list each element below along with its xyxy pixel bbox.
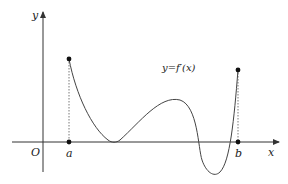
derivative-curve	[69, 59, 238, 174]
point-b-label: b	[235, 147, 242, 160]
x-axis-label: x	[268, 146, 275, 159]
graph-canvas: y x O a b y=f′(x)	[0, 0, 288, 184]
point-a-axis	[67, 140, 72, 145]
y-axis-label: y	[31, 9, 39, 22]
point-b-top	[236, 68, 241, 73]
point-a-top	[67, 57, 72, 62]
point-a-label: a	[66, 147, 73, 160]
function-label: y=f′(x)	[161, 62, 196, 73]
origin-label: O	[31, 146, 40, 159]
point-b-axis	[236, 140, 241, 145]
